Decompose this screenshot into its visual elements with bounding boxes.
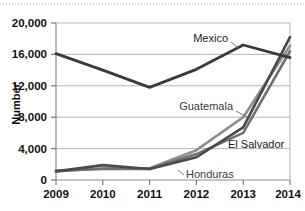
y-tick-label-4000: 4,000 (18, 143, 47, 155)
line-chart: 20,000 16,000 12,000 8,000 4,000 0 2009 … (0, 0, 305, 211)
y-tick-label-8000: 8,000 (18, 111, 47, 123)
y-tick-label-16000: 16,000 (12, 48, 47, 60)
y-tick-label-0: 0 (41, 174, 47, 186)
x-tick-label-2014: 2014 (275, 188, 301, 200)
series-label-el-salvador: El Salvador (228, 138, 285, 150)
x-tick-label-2011: 2011 (137, 188, 163, 200)
series-label-guatemala: Guatemala (179, 100, 234, 112)
gridlines (56, 23, 290, 149)
series-line-honduras (56, 37, 290, 171)
x-tick-label-2012: 2012 (184, 188, 210, 200)
series-line-el-salvador (56, 51, 290, 170)
x-tick-label-2009: 2009 (43, 188, 69, 200)
x-axis-tick-labels: 2009 2010 2011 2012 2013 2014 (43, 188, 301, 200)
x-tick-label-2013: 2013 (230, 188, 256, 200)
y-tick-marks (51, 23, 56, 180)
leader-line-honduras (178, 170, 184, 175)
data-series-group (56, 37, 290, 171)
series-line-mexico (56, 45, 290, 87)
x-tick-label-2010: 2010 (90, 188, 116, 200)
leader-line-mexico (231, 42, 238, 48)
y-axis-title: Number (10, 83, 22, 125)
series-label-honduras: Honduras (186, 168, 234, 180)
x-tick-marks (56, 180, 290, 185)
chart-container: 20,000 16,000 12,000 8,000 4,000 0 2009 … (0, 0, 305, 211)
series-label-mexico: Mexico (193, 32, 228, 44)
y-tick-label-20000: 20,000 (12, 17, 47, 29)
